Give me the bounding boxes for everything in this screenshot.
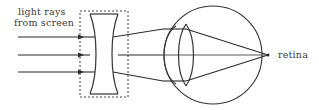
optics-diagram: light rays from screen bbox=[0, 0, 319, 110]
diverging-rays bbox=[113, 29, 163, 81]
eye-ray-bottom-refracted bbox=[186, 55, 268, 81]
optics-diagram-svg: light rays from screen bbox=[0, 0, 319, 110]
incoming-light-rays bbox=[18, 37, 84, 72]
concave-lens-left-surface bbox=[90, 14, 96, 94]
source-label-line2: from screen bbox=[14, 17, 74, 28]
corrective-concave-lens bbox=[90, 14, 118, 94]
eyeglass-frame-box bbox=[80, 11, 128, 97]
diverging-ray-top bbox=[113, 29, 163, 37]
ray-segments-to-lens bbox=[84, 37, 95, 72]
retina-label: retina bbox=[278, 49, 308, 60]
retina-focal-point bbox=[267, 54, 270, 57]
diverging-ray-bottom bbox=[113, 72, 163, 81]
eye-ray-top-refracted bbox=[186, 29, 268, 55]
concave-lens-right-surface bbox=[112, 14, 118, 94]
source-label-line1: light rays bbox=[18, 6, 66, 17]
